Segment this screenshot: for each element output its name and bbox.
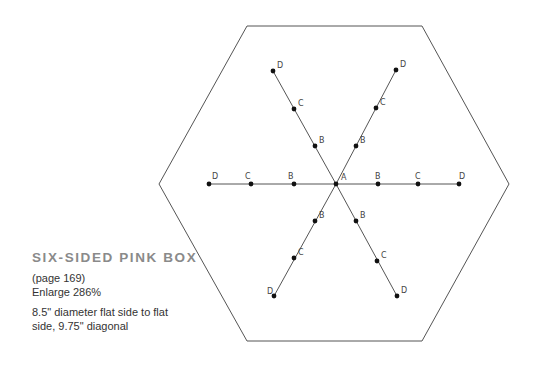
fold-line-lower-right [336, 184, 397, 296]
point-upper-left-b [313, 144, 318, 149]
point-lower-right-c [375, 259, 380, 264]
label-lower-right-b: B [360, 211, 366, 220]
point-upper-right-c [374, 106, 379, 111]
label-upper-left-c: C [298, 99, 304, 108]
enlarge-instruction: Enlarge 286% [32, 285, 202, 299]
point-labels: BCDBCDBCDBCDBCDBCDA [212, 60, 465, 296]
point-lower-left-b [313, 219, 318, 224]
label-right-b: B [375, 172, 381, 181]
page-reference: (page 169) [32, 271, 202, 285]
label-center-a: A [341, 173, 347, 182]
fold-points [207, 68, 462, 299]
label-lower-left-c: C [298, 248, 304, 257]
point-left-d [207, 182, 212, 187]
point-upper-left-d [271, 69, 276, 74]
label-upper-left-b: B [319, 136, 325, 145]
caption-block: SIX-SIDED PINK BOX (page 169) Enlarge 28… [32, 250, 202, 333]
fold-line-lower-left [274, 184, 336, 296]
label-right-c: C [415, 172, 421, 181]
label-left-b: B [288, 172, 294, 181]
label-upper-right-d: D [400, 60, 406, 69]
point-right-d [457, 182, 462, 187]
point-lower-right-d [395, 294, 400, 299]
point-left-c [249, 182, 254, 187]
point-upper-right-b [354, 144, 359, 149]
caption-title: SIX-SIDED PINK BOX [32, 250, 202, 265]
point-right-c [416, 182, 421, 187]
point-left-b [292, 182, 297, 187]
label-lower-left-b: B [319, 211, 325, 220]
label-left-c: C [245, 172, 251, 181]
dimensions-text-1: 8.5" diameter flat side to flat [32, 305, 202, 319]
label-lower-right-c: C [381, 251, 387, 260]
point-upper-right-d [394, 68, 399, 73]
point-lower-right-b [354, 219, 359, 224]
label-right-d: D [459, 172, 465, 181]
label-left-d: D [212, 172, 218, 181]
label-upper-right-b: B [360, 136, 366, 145]
label-lower-left-d: D [267, 287, 273, 296]
point-lower-left-c [292, 256, 297, 261]
label-upper-left-d: D [277, 61, 283, 70]
dimensions-text-2: side, 9.75" diagonal [32, 319, 202, 333]
point-right-b [376, 182, 381, 187]
label-lower-right-d: D [401, 286, 407, 295]
label-upper-right-c: C [380, 98, 386, 107]
point-center-a [334, 182, 339, 187]
fold-line-upper-right [336, 70, 396, 184]
fold-line-upper-left [273, 71, 336, 184]
point-upper-left-c [292, 107, 297, 112]
